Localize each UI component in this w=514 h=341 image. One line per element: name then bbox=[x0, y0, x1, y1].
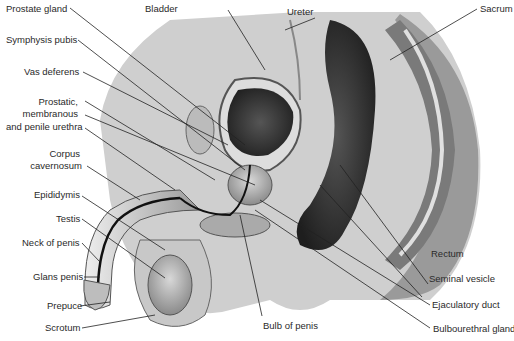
label-glans-penis: Glans penis bbox=[33, 271, 83, 282]
label-rectum: Rectum bbox=[431, 248, 464, 259]
label-symphysis-pubis: Symphysis pubis bbox=[6, 34, 77, 45]
label-neck-of-penis: Neck of penis bbox=[22, 237, 80, 248]
label-prostate-gland: Prostate gland bbox=[6, 3, 67, 14]
label-sacrum: Sacrum bbox=[480, 3, 513, 14]
label-ejaculatory-duct: Ejaculatory duct bbox=[432, 299, 500, 310]
label-bulb-of-penis: Bulb of penis bbox=[263, 320, 318, 331]
label-corpus-line1: Corpus bbox=[49, 148, 80, 159]
anatomy-diagram: Prostate gland Bladder Ureter Sacrum Sym… bbox=[0, 0, 514, 341]
label-seminal-vesicle: Seminal vesicle bbox=[429, 273, 495, 284]
label-scrotum: Scrotum bbox=[45, 322, 80, 333]
label-bladder: Bladder bbox=[145, 3, 178, 14]
label-ureter: Ureter bbox=[287, 6, 313, 17]
label-urethra-line2: membranous bbox=[23, 108, 78, 119]
label-prepuce: Prepuce bbox=[47, 300, 82, 311]
label-urethra-line3: and penile urethra bbox=[6, 121, 83, 132]
label-corpus-line2: cavernosum bbox=[30, 160, 82, 171]
label-epididymis: Epididymis bbox=[34, 189, 80, 200]
label-bulbourethral-gland: Bulbourethral gland bbox=[433, 323, 514, 334]
label-testis: Testis bbox=[56, 213, 80, 224]
label-vas-deferens: Vas deferens bbox=[24, 66, 79, 77]
label-urethra-line1: Prostatic, bbox=[38, 96, 78, 107]
